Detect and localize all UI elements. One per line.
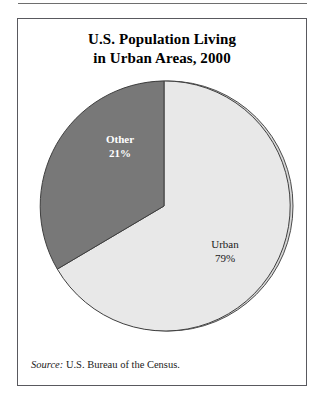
top-horizontal-rule — [18, 3, 307, 4]
source-note-text: U.S. Bureau of the Census. — [66, 359, 180, 370]
figure-frame: U.S. Population Living in Urban Areas, 2… — [17, 18, 307, 386]
pie-chart-svg — [18, 19, 306, 385]
pie-chart: Other 21% Urban 79% — [18, 19, 306, 385]
figure-root: U.S. Population Living in Urban Areas, 2… — [0, 0, 324, 406]
source-note-label: Source: — [31, 359, 63, 370]
source-note: Source: U.S. Bureau of the Census. — [31, 359, 180, 370]
